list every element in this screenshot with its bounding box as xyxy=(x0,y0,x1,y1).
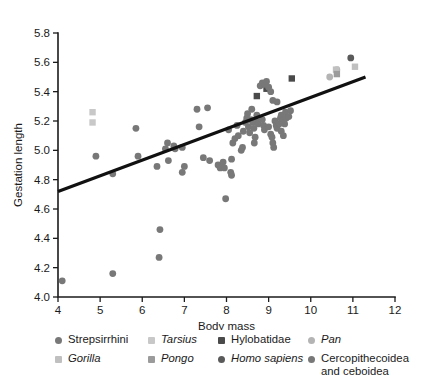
y-tick-label: 4.0 xyxy=(34,291,50,303)
y-tick-label: 5.6 xyxy=(34,56,50,68)
data-point-circle xyxy=(263,78,270,85)
legend-column-1: StrepsirrhiniGorilla xyxy=(55,333,128,371)
data-point-circle xyxy=(287,107,294,114)
x-axis-title: Body mass xyxy=(198,320,255,330)
data-point-circle xyxy=(154,163,161,170)
data-point-circle xyxy=(133,125,140,132)
data-point-circle xyxy=(285,113,292,120)
data-point-square xyxy=(89,109,95,115)
x-tick-label: 11 xyxy=(347,304,359,316)
data-point-square xyxy=(254,93,260,99)
data-point-circle xyxy=(204,104,211,111)
y-tick-label: 4.8 xyxy=(34,174,50,186)
series-tarsius xyxy=(89,109,95,126)
legend-item-label: Hylobatidae xyxy=(231,333,291,346)
chart-legend: StrepsirrhiniGorillaTarsiusPongoHylobati… xyxy=(0,333,425,391)
legend-item-hylobatidae[interactable]: Hylobatidae xyxy=(218,333,303,352)
legend-column-2: TarsiusPongo xyxy=(148,333,197,371)
legend-item-label: Cercopithecoideaand ceboidea xyxy=(321,352,409,377)
x-tick-label: 12 xyxy=(389,304,402,316)
data-point-circle xyxy=(200,154,207,161)
data-point-circle xyxy=(252,134,259,141)
data-point-circle xyxy=(181,163,188,170)
data-point-circle xyxy=(269,134,276,141)
data-point-circle xyxy=(109,270,116,277)
data-point-circle xyxy=(156,254,163,261)
y-axis-title: Gestation length xyxy=(12,123,24,207)
y-tick-label: 4.6 xyxy=(34,203,50,215)
scatter-plot: 4.04.24.44.64.85.05.25.45.65.84567891011… xyxy=(0,0,425,330)
y-tick-label: 4.2 xyxy=(34,262,50,274)
data-point-circle xyxy=(165,157,172,164)
data-point-circle xyxy=(281,121,288,128)
y-tick-label: 5.2 xyxy=(34,115,50,127)
x-tick-label: 8 xyxy=(223,304,229,316)
data-point-square xyxy=(352,64,358,70)
axis-lines xyxy=(58,33,395,297)
legend-item-cercopithecoidea-and-ceboidea[interactable]: Cercopithecoideaand ceboidea xyxy=(308,352,409,371)
data-point-circle xyxy=(135,153,142,160)
series-homo-sapiens xyxy=(347,55,354,62)
legend-square-icon xyxy=(218,337,225,344)
data-point-circle xyxy=(280,132,287,139)
legend-item-label: Pan xyxy=(321,333,341,346)
data-point-circle xyxy=(194,106,201,113)
data-point-circle xyxy=(179,169,186,176)
legend-item-label: Tarsius xyxy=(161,333,197,346)
data-point-circle xyxy=(326,74,333,81)
x-tick-label: 7 xyxy=(181,304,187,316)
data-point-circle xyxy=(251,140,258,147)
legend-item-pan[interactable]: Pan xyxy=(308,333,409,352)
x-tick-label: 5 xyxy=(97,304,103,316)
data-point-circle xyxy=(265,123,272,130)
x-tick-label: 9 xyxy=(265,304,271,316)
legend-item-label: Homo sapiens xyxy=(231,352,303,365)
y-tick-label: 5.8 xyxy=(34,27,50,39)
data-point-square xyxy=(89,119,95,125)
regression-trendline xyxy=(58,77,366,191)
data-point-square xyxy=(289,75,295,81)
data-point-circle xyxy=(248,106,255,113)
y-tick-label: 5.0 xyxy=(34,144,50,156)
legend-circle-icon xyxy=(55,337,62,344)
y-tick-label: 4.4 xyxy=(34,232,51,244)
x-tick-label: 10 xyxy=(304,304,317,316)
legend-square-icon xyxy=(148,337,155,344)
legend-item-homo-sapiens[interactable]: Homo sapiens xyxy=(218,352,303,371)
legend-item-tarsius[interactable]: Tarsius xyxy=(148,333,197,352)
data-point-circle xyxy=(206,157,213,164)
legend-item-label: Pongo xyxy=(161,352,194,365)
data-point-circle xyxy=(270,144,277,151)
y-tick-label: 5.4 xyxy=(34,86,51,98)
data-point-circle xyxy=(196,123,203,130)
legend-item-pongo[interactable]: Pongo xyxy=(148,352,197,371)
x-tick-label: 6 xyxy=(139,304,145,316)
legend-item-label: Gorilla xyxy=(68,352,101,365)
x-tick-label: 4 xyxy=(55,304,62,316)
legend-circle-icon xyxy=(308,356,315,363)
data-point-circle xyxy=(157,226,164,233)
legend-item-strepsirrhini[interactable]: Strepsirrhini xyxy=(55,333,128,352)
data-point-square xyxy=(334,71,340,77)
series-pongo xyxy=(334,71,340,77)
data-point-circle xyxy=(347,55,354,62)
legend-circle-icon xyxy=(308,337,315,344)
data-point-circle xyxy=(228,156,235,163)
legend-item-label: Strepsirrhini xyxy=(68,333,128,346)
legend-column-4: PanCercopithecoideaand ceboidea xyxy=(308,333,409,371)
legend-square-icon xyxy=(148,356,155,363)
data-point-circle xyxy=(267,88,274,95)
legend-column-3: HylobatidaeHomo sapiens xyxy=(218,333,303,371)
data-point-circle xyxy=(228,172,235,179)
legend-item-gorilla[interactable]: Gorilla xyxy=(55,352,128,371)
data-point-circle xyxy=(93,153,100,160)
legend-circle-icon xyxy=(218,356,225,363)
gestation-length-vs-body-mass-figure: 4.04.24.44.64.85.05.25.45.65.84567891011… xyxy=(0,0,425,391)
data-point-circle xyxy=(59,277,66,284)
data-point-circle xyxy=(222,195,229,202)
legend-square-icon xyxy=(55,356,62,363)
data-point-circle xyxy=(221,165,228,172)
data-point-circle xyxy=(164,140,171,147)
series-strepsirrhini xyxy=(59,104,232,284)
data-point-circle xyxy=(220,159,227,166)
